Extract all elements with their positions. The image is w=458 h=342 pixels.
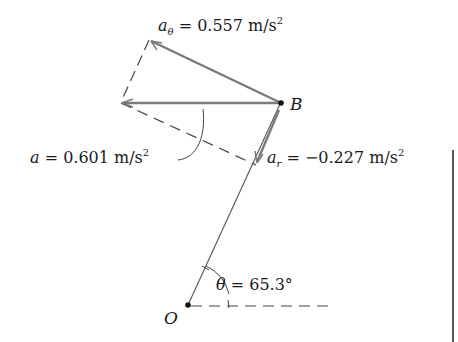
point-B-dot xyxy=(278,100,284,106)
label-theta-value: = 65.3° xyxy=(226,275,293,294)
label-a-symbol: a xyxy=(30,148,40,167)
label-a-r-exponent: 2 xyxy=(398,147,404,158)
label-a-theta-value: = 0.557 m/s xyxy=(174,16,277,35)
dashed-parallelogram-side xyxy=(121,40,149,102)
label-a-r-symbol: a xyxy=(267,148,277,167)
label-point-O: O xyxy=(164,310,178,327)
label-a-value: = 0.601 m/s xyxy=(40,148,143,167)
point-O-dot xyxy=(185,302,191,308)
vector-a-theta xyxy=(151,41,279,102)
label-a-theta-symbol: a xyxy=(158,16,168,35)
label-a-theta: aθ = 0.557 m/s2 xyxy=(158,18,283,34)
label-a-r-value: = −0.227 m/s xyxy=(281,148,398,167)
label-a-theta-exponent: 2 xyxy=(277,15,283,26)
label-a-theta-subscript: θ xyxy=(168,26,174,37)
label-a-exponent: 2 xyxy=(143,147,149,158)
angle-tick-bottom xyxy=(228,300,229,308)
label-a-r: ar = −0.227 m/s2 xyxy=(267,150,404,166)
diagram-canvas: aθ = 0.557 m/s2 B a = 0.601 m/s2 ar = −0… xyxy=(0,0,458,342)
label-a-r-subscript: r xyxy=(277,158,282,169)
label-theta: θ = 65.3° xyxy=(216,277,293,293)
label-a: a = 0.601 m/s2 xyxy=(30,150,149,166)
label-point-B: B xyxy=(290,96,303,113)
label-theta-symbol: θ xyxy=(216,275,226,294)
